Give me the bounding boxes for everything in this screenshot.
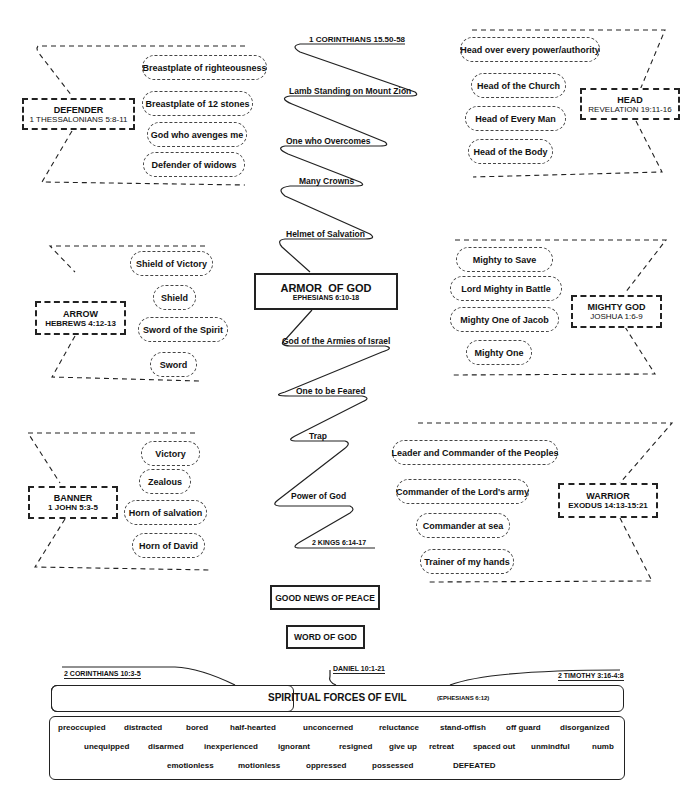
arrow-tag: ARROW HEBREWS 4:12-13 <box>35 301 126 335</box>
evil-word: possessed <box>372 761 413 770</box>
tag-ref: HEBREWS 4:12-13 <box>45 319 116 328</box>
list-item: God who avenges me <box>147 122 247 147</box>
evil-word: oppressed <box>306 761 346 770</box>
tag-ref: REVELATION 19:11-16 <box>588 105 671 114</box>
evil-word: give up <box>389 742 417 751</box>
evil-word: numb <box>592 742 614 751</box>
tag-title: WARRIOR <box>586 491 630 501</box>
zigzag-label: Lamb Standing on Mount Zion <box>289 86 411 96</box>
list-item: Zealous <box>139 469 191 494</box>
list-item: Breastplate of 12 stones <box>142 91 253 116</box>
list-item: Lord Mighty in Battle <box>450 276 562 301</box>
list-item: Trainer of my hands <box>420 549 514 574</box>
banner-tag: BANNER 1 JOHN 5:3-5 <box>28 486 118 519</box>
zigzag-label: One to be Feared <box>296 386 365 396</box>
evil-ref-center: DANIEL 10:1-21 <box>333 665 385 674</box>
zigzag-top-ref: 1 CORINTHIANS 15.50-58 <box>309 35 405 44</box>
zigzag-label: Many Crowns <box>299 176 354 186</box>
mighty-god-tag: MIGHTY GOD JOSHUA 1:6-9 <box>571 295 662 328</box>
evil-word-defeated: DEFEATED <box>453 761 496 770</box>
evil-word: spaced out <box>473 742 515 751</box>
evil-title-ref: (EPHESIANS 6:12) <box>437 695 489 701</box>
word-of-god-box: WORD OF GOD <box>286 625 365 649</box>
tag-title: HEAD <box>617 95 643 105</box>
evil-word: off guard <box>506 723 541 732</box>
list-item: Head of the Body <box>468 139 553 164</box>
list-item: Victory <box>141 441 200 466</box>
list-item: Sword of the Spirit <box>138 317 228 342</box>
zigzag-label: One who Overcomes <box>286 136 371 146</box>
zigzag-label: Power of God <box>291 491 346 501</box>
evil-word: disarmed <box>148 742 184 751</box>
tag-title: ARROW <box>63 309 98 319</box>
tag-ref: JOSHUA 1:6-9 <box>590 312 642 321</box>
evil-word: half-hearted <box>230 723 276 732</box>
zigzag-label: God of the Armies of Israel <box>282 336 390 346</box>
list-item: Mighty One of Jacob <box>450 307 559 332</box>
armor-of-god-box: ARMOR OF GOD EPHESIANS 6:10-18 <box>254 273 398 310</box>
list-item: Breastplate of righteousness <box>142 55 267 80</box>
tag-title: MIGHTY GOD <box>588 302 646 312</box>
head-tag: HEAD REVELATION 19:11-16 <box>580 88 680 120</box>
good-news-box: GOOD NEWS OF PEACE <box>270 585 380 610</box>
evil-word: reluctance <box>379 723 419 732</box>
evil-word: retreat <box>429 742 454 751</box>
tag-title: BANNER <box>54 493 93 503</box>
evil-word: ignorant <box>278 742 310 751</box>
list-item: Horn of salvation <box>124 500 207 525</box>
tag-title: DEFENDER <box>54 105 104 115</box>
evil-ref-left: 2 CORINTHIANS 10:3-5 <box>64 670 141 679</box>
list-item: Mighty One <box>466 340 532 365</box>
evil-word: motionless <box>238 761 280 770</box>
list-item: Leader and Commander of the Peoples <box>392 440 558 465</box>
zigzag-bottom-ref: 2 KINGS 6:14-17 <box>312 539 366 546</box>
evil-word: resigned <box>339 742 372 751</box>
tag-ref: 1 JOHN 5:3-5 <box>48 503 98 512</box>
evil-word: bored <box>186 723 208 732</box>
zigzag-label: Trap <box>309 431 327 441</box>
zigzag-label: Helmet of Salvation <box>286 229 365 239</box>
list-item: Mighty to Save <box>456 247 553 272</box>
list-item: Head of the Church <box>471 73 566 98</box>
evil-word: distracted <box>124 723 162 732</box>
tag-ref: 1 THESSALONIANS 5:8-11 <box>30 115 128 124</box>
evil-word: unconcerned <box>303 723 353 732</box>
evil-word: inexperienced <box>204 742 258 751</box>
list-item: Commander at sea <box>416 513 510 538</box>
evil-ref-right: 2 TIMOTHY 3:16-4:8 <box>558 672 624 681</box>
evil-word: unmindful <box>531 742 570 751</box>
list-item: Shield of Victory <box>130 251 213 276</box>
list-item: Sword <box>150 352 197 377</box>
center-title: ARMOR OF GOD <box>280 282 371 294</box>
warrior-tag: WARRIOR EXODUS 14:13-15:21 <box>558 483 658 518</box>
evil-title: SPIRITUAL FORCES OF EVIL <box>268 692 407 703</box>
evil-word: stand-offish <box>440 723 486 732</box>
evil-word: emotionless <box>167 761 214 770</box>
list-item: Commander of the Lord's army <box>396 479 529 504</box>
center-ref: EPHESIANS 6:10-18 <box>293 294 360 301</box>
tag-ref: EXODUS 14:13-15:21 <box>568 501 648 510</box>
list-item: Horn of David <box>132 533 205 558</box>
list-item: Shield <box>153 285 196 310</box>
defender-tag: DEFENDER 1 THESSALONIANS 5:8-11 <box>22 98 135 130</box>
list-item: Defender of widows <box>143 152 245 177</box>
list-item: Head over every power/authority <box>460 37 600 62</box>
evil-word: unequipped <box>84 742 129 751</box>
evil-word: disorganized <box>560 723 609 732</box>
evil-word: preoccupied <box>58 723 106 732</box>
list-item: Head of Every Man <box>465 106 566 131</box>
